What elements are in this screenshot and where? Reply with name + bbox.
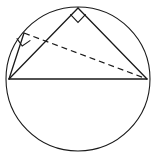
geometry-figure: Inscribed right triangle in a circle Cir… xyxy=(0,0,157,157)
geometry-canvas: Inscribed right triangle in a circle Cir… xyxy=(0,0,157,157)
right-angle-marker-upper-left-icon xyxy=(17,39,30,46)
segment-side-right xyxy=(78,8,147,79)
segment-chord-dashed xyxy=(24,33,147,79)
segment-side-left xyxy=(9,8,78,79)
right-angle-marker-apex-icon xyxy=(71,15,86,23)
